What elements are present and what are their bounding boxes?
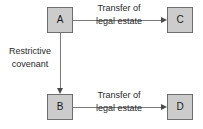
node-d-label: D <box>176 102 183 112</box>
node-a[interactable]: A <box>47 7 73 33</box>
edge-label-b-to-d: Transfer of legal estate <box>86 89 152 115</box>
edge-label-a-to-c-line2: legal estate <box>86 15 152 28</box>
node-a-label: A <box>57 15 64 25</box>
edge-label-b-to-d-line1: Transfer of <box>86 89 152 102</box>
edge-label-a-to-b-line2: covenant <box>2 58 58 71</box>
edge-label-a-to-c: Transfer of legal estate <box>86 2 152 28</box>
node-b[interactable]: B <box>47 94 73 120</box>
connector-a-to-b <box>60 33 61 89</box>
edge-label-a-to-b: Restrictive covenant <box>2 45 58 71</box>
node-c-label: C <box>176 15 183 25</box>
edge-label-b-to-d-line2: legal estate <box>86 102 152 115</box>
node-d[interactable]: D <box>167 94 193 120</box>
diagram-canvas: A C B D Transfer of legal estate Restric… <box>0 0 203 129</box>
node-b-label: B <box>57 102 64 112</box>
edge-label-a-to-b-line1: Restrictive <box>2 45 58 58</box>
node-c[interactable]: C <box>167 7 193 33</box>
edge-label-a-to-c-line1: Transfer of <box>86 2 152 15</box>
